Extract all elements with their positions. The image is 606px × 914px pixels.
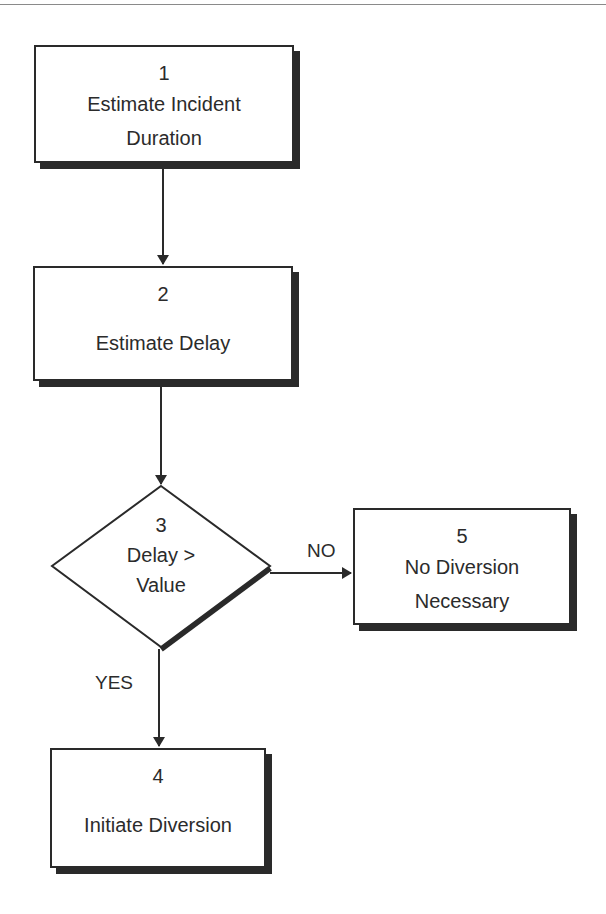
process-box-2: 2 Estimate Delay: [33, 266, 293, 381]
node-number: 3: [101, 510, 221, 540]
node-number: 1: [158, 61, 169, 85]
node-label: Delay >: [101, 540, 221, 570]
node-label: Necessary: [415, 586, 509, 616]
node-label: No Diversion: [405, 552, 519, 582]
node-number: 5: [456, 524, 467, 548]
edge-label-yes: YES: [95, 672, 133, 694]
edge-label-no: NO: [307, 540, 336, 562]
node-label: Value: [101, 570, 221, 600]
decision-text-3: 3 Delay > Value: [101, 510, 221, 600]
process-box-1: 1 Estimate Incident Duration: [34, 45, 294, 163]
node-label: Estimate Incident: [87, 89, 240, 119]
node-label: Initiate Diversion: [84, 810, 232, 840]
process-box-5: 5 No Diversion Necessary: [353, 508, 571, 625]
node-number: 4: [152, 764, 163, 788]
node-label: Duration: [126, 123, 202, 153]
node-number: 2: [157, 282, 168, 306]
process-box-4: 4 Initiate Diversion: [50, 748, 266, 868]
node-label: Estimate Delay: [96, 328, 231, 358]
